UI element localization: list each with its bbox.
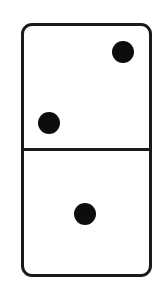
pip-top-lower-left — [38, 112, 60, 134]
pip-bottom-center — [74, 203, 96, 225]
domino-tile — [21, 23, 152, 277]
domino-divider-line — [24, 148, 149, 151]
pip-top-upper-right — [112, 41, 134, 63]
